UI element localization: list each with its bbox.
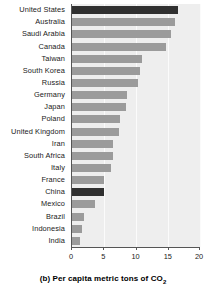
bar bbox=[72, 115, 120, 123]
bar bbox=[72, 128, 119, 136]
axis-tick-label: 20 bbox=[189, 252, 206, 261]
axis-tick bbox=[71, 247, 72, 250]
bar bbox=[72, 176, 104, 184]
bar bbox=[72, 164, 111, 172]
gridline bbox=[168, 4, 169, 247]
category-label: Russia bbox=[42, 77, 65, 89]
bar bbox=[72, 152, 113, 160]
category-label: India bbox=[48, 235, 65, 247]
chart-plot-area: United StatesAustraliaSaudi ArabiaCanada… bbox=[0, 4, 206, 249]
category-label: France bbox=[41, 174, 65, 186]
category-label: United Kingdom bbox=[11, 126, 65, 138]
figure-per-capita-co2: United StatesAustraliaSaudi ArabiaCanada… bbox=[0, 0, 206, 297]
category-label: United States bbox=[19, 4, 65, 16]
axis-tick bbox=[168, 247, 169, 250]
axis-tick-label: 0 bbox=[61, 252, 81, 261]
bar bbox=[72, 79, 138, 87]
gridline bbox=[136, 4, 137, 247]
axis-tick-label: 10 bbox=[126, 252, 146, 261]
axis-tick bbox=[103, 247, 104, 250]
category-label: Canada bbox=[39, 41, 66, 53]
category-label: Mexico bbox=[41, 198, 65, 210]
axis-tick-label: 5 bbox=[93, 252, 113, 261]
category-label: Italy bbox=[51, 162, 65, 174]
bar bbox=[72, 91, 127, 99]
bar bbox=[72, 6, 178, 14]
bar bbox=[72, 188, 104, 196]
bar bbox=[72, 18, 175, 26]
bar bbox=[72, 67, 140, 75]
caption-prefix: (b) bbox=[40, 274, 51, 283]
bar bbox=[72, 103, 126, 111]
gridline bbox=[104, 4, 105, 247]
axis-tick bbox=[199, 247, 200, 250]
category-axis-labels: United StatesAustraliaSaudi ArabiaCanada… bbox=[0, 4, 68, 247]
category-label: Australia bbox=[35, 16, 65, 28]
category-label: Indonesia bbox=[32, 223, 65, 235]
bar bbox=[72, 225, 82, 233]
bar bbox=[72, 55, 142, 63]
bar bbox=[72, 140, 113, 148]
caption-text: Per capita metric tons of CO bbox=[53, 274, 163, 283]
axis-tick-label: 15 bbox=[158, 252, 178, 261]
bar bbox=[72, 237, 80, 245]
category-label: Japan bbox=[44, 101, 65, 113]
bar bbox=[72, 43, 166, 51]
bar bbox=[72, 213, 84, 221]
figure-caption: (b) Per capita metric tons of CO2 bbox=[0, 274, 206, 283]
category-label: Poland bbox=[41, 113, 65, 125]
category-label: Taiwan bbox=[41, 53, 65, 65]
category-label: Brazil bbox=[46, 211, 65, 223]
category-label: China bbox=[45, 186, 65, 198]
bars-container bbox=[71, 4, 201, 247]
category-label: Germany bbox=[34, 89, 65, 101]
category-label: Saudi Arabia bbox=[22, 28, 65, 40]
bar bbox=[72, 30, 171, 38]
axis-tick bbox=[136, 247, 137, 250]
value-axis: 05101520 bbox=[71, 247, 200, 271]
bar bbox=[72, 200, 95, 208]
category-label: Iran bbox=[52, 138, 65, 150]
caption-subscript: 2 bbox=[163, 279, 166, 285]
category-label: South Korea bbox=[23, 65, 65, 77]
gridline bbox=[200, 4, 201, 247]
category-label: South Africa bbox=[24, 150, 65, 162]
